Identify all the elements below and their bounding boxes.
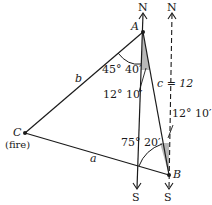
- south-label-right: S: [164, 191, 172, 204]
- bearing-triangle-diagram: N N S S A B C (fire) b a c = 12 45° 40′ …: [0, 0, 212, 205]
- angle-B-bearing-label: 12° 10′: [172, 107, 212, 120]
- north-south-line-left: [137, 14, 143, 188]
- point-A: [141, 30, 145, 34]
- side-a-label: a: [90, 152, 97, 165]
- north-south-line-right-dashed: [169, 14, 172, 188]
- angle-B-label: 75° 20′: [121, 136, 161, 149]
- angle-A-label: 45° 40′: [102, 63, 142, 76]
- point-A-label: A: [130, 20, 139, 33]
- point-C-label: C: [13, 126, 22, 139]
- point-C-fire-label: (fire): [5, 139, 30, 150]
- angle-A-bearing-label: 12° 10′: [103, 88, 143, 101]
- point-C: [23, 131, 27, 135]
- north-label-right: N: [167, 1, 177, 14]
- south-label-left: S: [132, 191, 140, 204]
- north-label-left: N: [138, 1, 148, 14]
- side-b-label: b: [75, 72, 82, 85]
- side-b-line: [25, 32, 143, 133]
- point-B: [167, 173, 171, 177]
- side-c-label: c = 12: [157, 77, 193, 90]
- point-B-label: B: [172, 168, 181, 181]
